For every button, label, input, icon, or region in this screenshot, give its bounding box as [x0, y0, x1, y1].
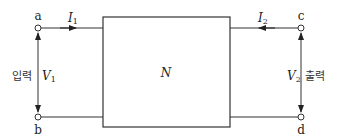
current-label-i2: I2: [257, 11, 268, 26]
terminal-c: [298, 25, 304, 31]
terminal-label-c: c: [298, 9, 305, 23]
input-caption: 입력: [12, 70, 32, 83]
terminal-b: [35, 114, 41, 120]
terminal-d: [298, 114, 304, 120]
terminal-a: [35, 25, 41, 31]
terminal-label-d: d: [297, 123, 305, 137]
terminal-label-b: b: [34, 123, 42, 137]
network-label: N: [160, 66, 172, 80]
two-port-network-diagram: N a b c d I1 I2 입력 V1 V2 출력: [0, 0, 339, 140]
current-label-i1: I1: [67, 11, 78, 26]
terminal-label-a: a: [34, 9, 41, 23]
voltage-label-v1: V1: [42, 69, 56, 84]
voltage-label-v2: V2: [287, 69, 301, 84]
output-caption: 출력: [305, 70, 325, 83]
